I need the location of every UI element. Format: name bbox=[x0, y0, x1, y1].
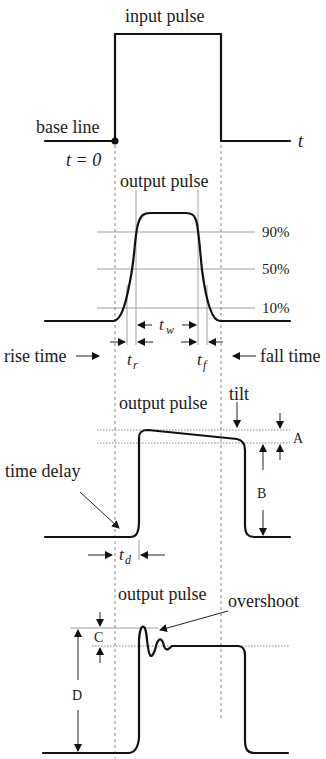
output-pulse-title-1: output pulse bbox=[120, 171, 209, 191]
level-90-label: 90% bbox=[262, 224, 290, 240]
tilt-delay-panel: output pulse tilt A B time delay t d bbox=[5, 384, 304, 567]
overshoot-panel: output pulse overshoot C D bbox=[43, 584, 299, 753]
C-label: C bbox=[94, 630, 103, 645]
td-subscript: d bbox=[125, 553, 132, 567]
output-pulse-waveform-2 bbox=[45, 430, 290, 537]
output-pulse-title-3: output pulse bbox=[118, 584, 207, 604]
B-label: B bbox=[257, 486, 266, 501]
overshoot-label: overshoot bbox=[228, 591, 299, 611]
tilt-label: tilt bbox=[229, 384, 249, 404]
tr-subscript: r bbox=[133, 358, 138, 372]
output-pulse-title-2: output pulse bbox=[119, 393, 208, 413]
input-pulse-panel: input pulse base line t = 0 t bbox=[36, 6, 304, 170]
rise-time-label: rise time bbox=[4, 346, 66, 366]
level-10-label: 10% bbox=[262, 300, 290, 316]
pulse-diagram: input pulse base line t = 0 t output pul… bbox=[0, 0, 326, 759]
tw-label: t bbox=[159, 315, 165, 334]
output-pulse-waveform-1 bbox=[45, 213, 290, 321]
tf-subscript: f bbox=[203, 358, 208, 372]
t0-dot-icon bbox=[112, 138, 119, 145]
D-label: D bbox=[72, 688, 82, 703]
baseline-label: base line bbox=[36, 117, 99, 137]
level-50-label: 50% bbox=[262, 261, 290, 277]
input-pulse-title: input pulse bbox=[125, 6, 205, 26]
A-label: A bbox=[293, 431, 304, 446]
time-delay-label: time delay bbox=[5, 461, 80, 481]
tw-subscript: w bbox=[166, 323, 174, 337]
rise-fall-panel: output pulse 90% 50% 10% t w t r t f ris… bbox=[4, 171, 320, 372]
time-axis-label: t bbox=[298, 131, 304, 151]
t0-label: t = 0 bbox=[66, 150, 101, 170]
fall-time-label: fall time bbox=[260, 346, 320, 366]
